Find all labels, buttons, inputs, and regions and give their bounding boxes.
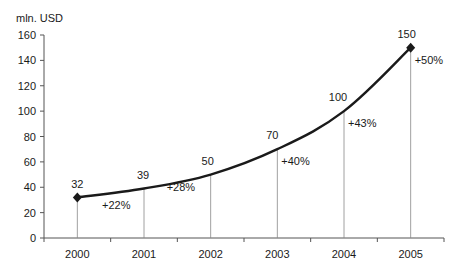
y-tick-label: 100	[18, 105, 36, 117]
y-tick-label: 120	[18, 80, 36, 92]
value-label: 100	[329, 91, 347, 103]
y-tick-label: 80	[24, 131, 36, 143]
value-label: 150	[397, 28, 415, 40]
y-axis-title-text: mln. USD	[16, 12, 63, 24]
growth-label: +40%	[281, 155, 310, 167]
data-labels: 32395070100150+22%+28%+40%+43%+50%	[71, 28, 443, 211]
line-chart: mln. USD 0204060801001201401602000200120…	[0, 0, 460, 272]
x-tick-label: 2002	[198, 248, 222, 260]
growth-label: +50%	[415, 54, 444, 66]
diamond-marker-icon	[73, 192, 82, 202]
y-axis-title: mln. USD	[16, 12, 63, 24]
growth-label: +28%	[167, 181, 196, 193]
x-tick-label: 2000	[65, 248, 89, 260]
axes: 0204060801001201401602000200120022003200…	[18, 29, 444, 260]
y-tick-label: 0	[30, 232, 36, 244]
growth-label: +22%	[102, 199, 131, 211]
growth-label: +43%	[348, 117, 377, 129]
value-label: 32	[71, 178, 83, 190]
x-tick-label: 2005	[398, 248, 422, 260]
y-tick-label: 20	[24, 207, 36, 219]
y-tick-label: 140	[18, 54, 36, 66]
y-tick-label: 40	[24, 181, 36, 193]
x-tick-label: 2001	[132, 248, 156, 260]
y-tick-label: 160	[18, 29, 36, 41]
y-tick-label: 60	[24, 156, 36, 168]
x-tick-label: 2004	[332, 248, 356, 260]
value-label: 70	[266, 129, 278, 141]
value-label: 50	[202, 155, 214, 167]
x-tick-label: 2003	[265, 248, 289, 260]
value-label: 39	[137, 169, 149, 181]
